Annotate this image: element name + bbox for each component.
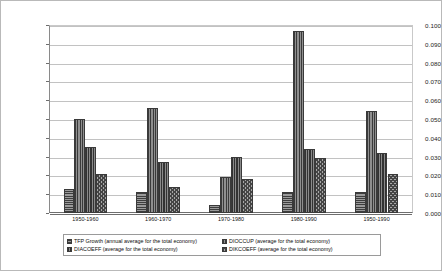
chart-legend: TFP Growth (annual average for the total… xyxy=(63,234,381,256)
legend-swatch-icon xyxy=(67,239,72,244)
legend-item: TFP Growth (annual average for the total… xyxy=(67,237,222,245)
x-tick-label: 1980-1990 xyxy=(267,216,340,222)
bar xyxy=(304,149,315,213)
y-tick-mark xyxy=(46,213,49,214)
legend-item: DIACOEFF (average for the total economy) xyxy=(67,245,222,253)
legend-item: DIOCCUP (average for the total economy) xyxy=(222,237,377,245)
bar xyxy=(220,177,231,213)
bar xyxy=(315,158,326,213)
bar xyxy=(74,119,85,213)
bar-group xyxy=(282,25,326,213)
bar xyxy=(158,162,169,213)
bar-chart: 0.1000.0900.0800.0700.0600.0500.0400.030… xyxy=(0,0,442,271)
x-tick-label: 1960-1970 xyxy=(122,216,195,222)
legend-swatch-icon xyxy=(67,247,72,252)
gridline xyxy=(50,214,412,215)
bar xyxy=(293,31,304,213)
legend-label: DIACOEFF (average for the total economy) xyxy=(74,245,178,253)
bar xyxy=(147,108,158,213)
bar-group xyxy=(209,25,253,213)
x-tick-label: 1970-1980 xyxy=(195,216,268,222)
bar xyxy=(366,111,377,213)
bars-layer xyxy=(49,25,413,213)
legend-swatch-icon xyxy=(222,247,227,252)
bar xyxy=(242,179,253,213)
bar xyxy=(355,192,366,213)
bar xyxy=(136,192,147,213)
bar-group xyxy=(136,25,180,213)
legend-label: DIOCCUP (average for the total economy) xyxy=(229,237,330,245)
bar xyxy=(169,187,180,213)
bar xyxy=(64,189,75,213)
bar xyxy=(96,174,107,213)
x-tick-label: 1950-1960 xyxy=(49,216,122,222)
legend-label: TFP Growth (annual average for the total… xyxy=(74,237,197,245)
bar xyxy=(85,147,96,213)
bar-group xyxy=(355,25,399,213)
bar xyxy=(209,205,220,213)
legend-item: DIKCOEFF (average for the total economy) xyxy=(222,245,377,253)
legend-swatch-icon xyxy=(222,239,227,244)
bar-group xyxy=(64,25,108,213)
bar xyxy=(388,174,399,213)
x-tick-label: 1950-1990 xyxy=(340,216,413,222)
bar xyxy=(282,192,293,213)
legend-label: DIKCOEFF (average for the total economy) xyxy=(229,245,333,253)
bar xyxy=(231,157,242,213)
bar xyxy=(377,153,388,213)
